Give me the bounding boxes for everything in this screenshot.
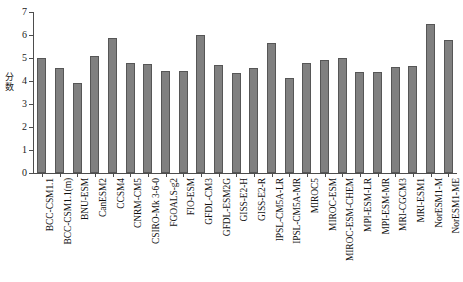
bar (126, 63, 135, 173)
y-tick-label: 4 (11, 76, 27, 86)
x-tick (60, 173, 61, 177)
y-tick (29, 58, 33, 59)
x-tick-labels: BCC-CSM1.1BCC-CSM1.1(m)BNU-ESMCanESM2CCS… (33, 178, 457, 282)
bar (214, 65, 223, 173)
x-tick (201, 173, 202, 177)
y-tick (29, 12, 33, 13)
x-tick (378, 173, 379, 177)
bar (355, 72, 364, 173)
bar (143, 64, 152, 173)
x-tick-label: MRI-ESM1 (417, 178, 427, 223)
x-tick (307, 173, 308, 177)
x-tick (166, 173, 167, 177)
x-tick (236, 173, 237, 177)
plot-area: 01234567 (33, 12, 457, 173)
x-tick-label: IPSL-CM5A-MR (293, 178, 303, 244)
x-tick (219, 173, 220, 177)
x-tick-label: BCC-CSM1.1 (46, 178, 56, 231)
x-tick-label: CCSM4 (117, 178, 127, 209)
y-tick (29, 35, 33, 36)
y-tick-label: 7 (11, 7, 27, 17)
y-tick-label: 6 (11, 30, 27, 40)
x-axis-line (33, 173, 457, 174)
x-tick (395, 173, 396, 177)
y-tick (29, 127, 33, 128)
bars-layer (33, 12, 457, 173)
bar (73, 83, 82, 173)
x-tick-label: GFDL-CM3 (205, 178, 215, 225)
bar (55, 68, 64, 173)
x-tick (95, 173, 96, 177)
bar (302, 63, 311, 173)
bar (426, 24, 435, 174)
x-tick-label: IPSL-CM5A-LR (276, 178, 286, 241)
x-tick-label: CSIRO-Mk 3-6-0 (152, 178, 162, 244)
y-tick (29, 173, 33, 174)
x-tick (289, 173, 290, 177)
bar (267, 43, 276, 173)
y-tick-label: 0 (11, 168, 27, 178)
x-tick-label: NorESM1-ME (452, 178, 462, 233)
x-tick-label: CanESM2 (99, 178, 109, 217)
x-tick-label: FGOALS-g2 (170, 178, 180, 227)
bar (373, 72, 382, 173)
x-tick-label: CNRM-CM5 (134, 178, 144, 228)
bar (320, 60, 329, 173)
x-tick (431, 173, 432, 177)
y-tick-label: 1 (11, 145, 27, 155)
x-tick-label: FIO-ESM (187, 178, 197, 215)
x-tick (342, 173, 343, 177)
x-tick (130, 173, 131, 177)
bar (249, 68, 258, 173)
bar (285, 78, 294, 173)
x-tick (360, 173, 361, 177)
bar (108, 38, 117, 173)
x-tick (325, 173, 326, 177)
y-tick (29, 150, 33, 151)
x-tick-label: MPI-ESM-LR (364, 178, 374, 232)
y-tick (29, 81, 33, 82)
x-tick (77, 173, 78, 177)
x-tick-label: MPI-ESM-MR (382, 178, 392, 235)
x-tick-label: MIROC-ESM (329, 178, 339, 231)
x-tick-label: BCC-CSM1.1(m) (64, 178, 74, 245)
x-tick (448, 173, 449, 177)
x-tick-label: GFDL-ESM2G (223, 178, 233, 236)
bar-chart: 分数 01234567 BCC-CSM1.1BCC-CSM1.1(m)BNU-E… (0, 0, 463, 282)
bar (338, 58, 347, 173)
x-tick-label: NorESM1-M (435, 178, 445, 228)
x-tick (42, 173, 43, 177)
bar (196, 35, 205, 173)
x-tick (148, 173, 149, 177)
y-tick (29, 104, 33, 105)
x-tick (413, 173, 414, 177)
x-tick-label: MIROC5 (311, 178, 321, 213)
y-tick-label: 3 (11, 99, 27, 109)
bar (408, 66, 417, 173)
bar (179, 71, 188, 173)
bar (232, 73, 241, 173)
y-tick-label: 5 (11, 53, 27, 63)
bar (391, 67, 400, 173)
bar (161, 71, 170, 173)
x-tick (183, 173, 184, 177)
x-tick (272, 173, 273, 177)
x-tick-label: BNU-ESM (81, 178, 91, 220)
bar (90, 56, 99, 173)
bar (444, 40, 453, 173)
y-tick-label: 2 (11, 122, 27, 132)
x-tick-label: MRI-CGCM3 (399, 178, 409, 231)
x-tick-label: MIROC-ESM-CHEM (346, 178, 356, 261)
x-tick-label: GISS-E2-R (258, 178, 268, 221)
x-tick (113, 173, 114, 177)
bar (37, 58, 46, 173)
x-tick-label: GISS-E2-H (240, 178, 250, 221)
x-tick (254, 173, 255, 177)
